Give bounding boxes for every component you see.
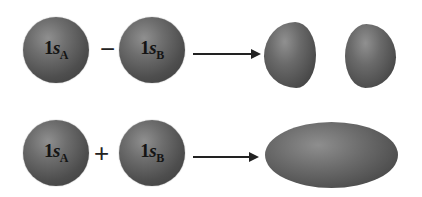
arrow-right-icon: [193, 156, 257, 158]
orbital-1s-b-bottom: 1sB: [119, 120, 185, 186]
arrow-right-icon: [193, 53, 259, 55]
orbital-label-text: 1s: [44, 140, 60, 161]
orbital-label: 1sA: [23, 37, 89, 63]
orbital-subscript: A: [60, 151, 68, 165]
minus-operator: −: [100, 36, 115, 62]
orbital-subscript: A: [60, 48, 68, 62]
orbital-label: 1sB: [119, 37, 185, 63]
orbital-subscript: B: [156, 151, 164, 165]
orbital-label: 1sA: [23, 140, 89, 166]
plus-operator: +: [94, 140, 109, 166]
antibonding-lobe-right: [345, 24, 396, 88]
orbital-1s-b-top: 1sB: [119, 17, 185, 83]
antibonding-lobe-left: [264, 22, 316, 88]
orbital-label-text: 1s: [44, 37, 60, 58]
orbital-1s-a-bottom: 1sA: [23, 120, 89, 186]
bonding-ellipsoid: [265, 122, 398, 188]
orbital-label: 1sB: [119, 140, 185, 166]
orbital-subscript: B: [156, 48, 164, 62]
orbital-label-text: 1s: [140, 37, 156, 58]
orbital-label-text: 1s: [140, 140, 156, 161]
orbital-1s-a-top: 1sA: [23, 17, 89, 83]
